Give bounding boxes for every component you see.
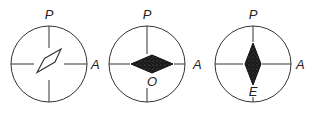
crystal-parallelogram bbox=[37, 49, 61, 73]
panel-1: P A bbox=[11, 7, 100, 102]
polarizer-label: P bbox=[45, 7, 54, 22]
analyzer-label: A bbox=[295, 57, 305, 72]
panel-2: P A O bbox=[109, 7, 202, 102]
polarizer-label: P bbox=[143, 7, 152, 22]
panel-3: P A E bbox=[215, 7, 305, 102]
polarizer-label: P bbox=[249, 7, 258, 22]
polarizer-figure: P A P A O bbox=[0, 0, 319, 116]
analyzer-label: A bbox=[90, 57, 100, 72]
extraordinary-ray-label: E bbox=[249, 84, 258, 99]
crystal-diamond-horizontal bbox=[131, 55, 173, 73]
analyzer-label: A bbox=[192, 57, 202, 72]
crystal-diamond-vertical bbox=[245, 43, 261, 85]
diagram-canvas: P A P A O bbox=[0, 0, 319, 116]
ordinary-ray-label: O bbox=[147, 74, 157, 89]
